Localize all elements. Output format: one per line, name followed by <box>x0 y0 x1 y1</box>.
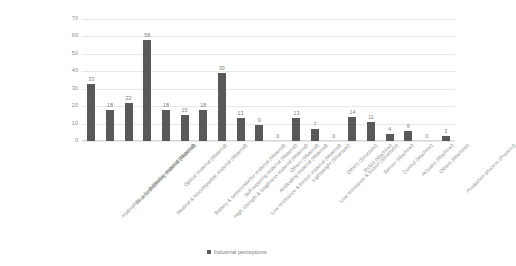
bar-value-label: 0 <box>426 134 429 139</box>
bar-value-label: 13 <box>238 111 244 116</box>
x-axis-category-labels: Hydrophilic & hydrophobic material (Mate… <box>82 143 455 233</box>
bar[interactable] <box>143 40 151 141</box>
chart-legend: Industrial perceptions <box>0 243 474 261</box>
y-axis-tick-label: 10 <box>72 121 78 127</box>
y-axis-tick-label: 0 <box>75 138 78 144</box>
y-axis-tick-label: 30 <box>72 86 78 92</box>
bar-value-label: 4 <box>388 127 391 132</box>
bar-value-label: 18 <box>163 103 169 108</box>
bar-slot[interactable]: 11 <box>362 19 381 141</box>
bar[interactable] <box>311 129 319 141</box>
bar-slot[interactable]: 0 <box>324 19 343 141</box>
bar-slot[interactable]: 4 <box>380 19 399 141</box>
bar-value-label: 18 <box>200 103 206 108</box>
bar-slot[interactable]: 0 <box>269 19 288 141</box>
y-axis-tick-label: 50 <box>72 51 78 57</box>
bar-series-industrial-perceptions: 33182258181518391390137014114603 <box>82 19 455 141</box>
bar-value-label: 14 <box>349 110 355 115</box>
bar[interactable] <box>199 110 207 141</box>
bar-value-label: 9 <box>258 118 261 123</box>
bar-slot[interactable]: 7 <box>306 19 325 141</box>
bar-value-label: 22 <box>126 96 132 101</box>
bar[interactable] <box>348 117 356 141</box>
legend-label: Industrial perceptions <box>214 249 267 255</box>
bar-value-label: 15 <box>182 108 188 113</box>
bar[interactable] <box>255 125 263 141</box>
bar-value-label: 58 <box>144 33 150 38</box>
bar-value-label: 13 <box>293 111 299 116</box>
bar[interactable] <box>218 73 226 141</box>
bar-slot[interactable]: 33 <box>82 19 101 141</box>
bar-slot[interactable]: 15 <box>175 19 194 141</box>
bar[interactable] <box>237 118 245 141</box>
bar-value-label: 0 <box>332 134 335 139</box>
bar-slot[interactable]: 13 <box>231 19 250 141</box>
bar[interactable] <box>106 110 114 141</box>
bar[interactable] <box>125 103 133 141</box>
y-axis-tick-label: 20 <box>72 103 78 109</box>
y-axis-tick-label: 70 <box>72 16 78 22</box>
y-axis-tick-labels: 706050403020100 <box>58 13 78 147</box>
y-axis-tick-label: 40 <box>72 68 78 74</box>
bar-slot[interactable]: 18 <box>101 19 120 141</box>
bar[interactable] <box>404 131 412 141</box>
bar-value-label: 18 <box>107 103 113 108</box>
bar-value-label: 7 <box>314 122 317 127</box>
bar-value-label: 3 <box>444 129 447 134</box>
bar[interactable] <box>181 115 189 141</box>
bar-slot[interactable]: 9 <box>250 19 269 141</box>
bar-value-label: 11 <box>368 115 374 120</box>
bar-value-label: 6 <box>407 124 410 129</box>
bar[interactable] <box>292 118 300 141</box>
legend-item[interactable]: Industrial perceptions <box>207 250 267 256</box>
bar-slot[interactable]: 22 <box>119 19 138 141</box>
legend-swatch-icon <box>207 250 211 254</box>
bar-slot[interactable]: 18 <box>157 19 176 141</box>
bar-slot[interactable]: 6 <box>399 19 418 141</box>
bar-slot[interactable]: 0 <box>418 19 437 141</box>
gridline <box>82 141 455 142</box>
bar[interactable] <box>87 84 95 142</box>
plot-area: 33182258181518391390137014114603 <box>82 19 455 141</box>
bar-slot[interactable]: 58 <box>138 19 157 141</box>
bar-value-label: 0 <box>276 134 279 139</box>
bar-slot[interactable]: 39 <box>213 19 232 141</box>
bar-slot[interactable]: 13 <box>287 19 306 141</box>
bar[interactable] <box>442 136 450 141</box>
bar-value-label: 33 <box>88 77 94 82</box>
bar[interactable] <box>162 110 170 141</box>
y-axis-tick-label: 60 <box>72 33 78 39</box>
bar-slot[interactable]: 3 <box>436 19 455 141</box>
bar[interactable] <box>367 122 375 141</box>
bar-value-label: 39 <box>219 66 225 71</box>
bar-slot[interactable]: 18 <box>194 19 213 141</box>
bar-slot[interactable]: 14 <box>343 19 362 141</box>
bar[interactable] <box>386 134 394 141</box>
x-axis-category-label: Production process (Process) <box>465 143 516 194</box>
